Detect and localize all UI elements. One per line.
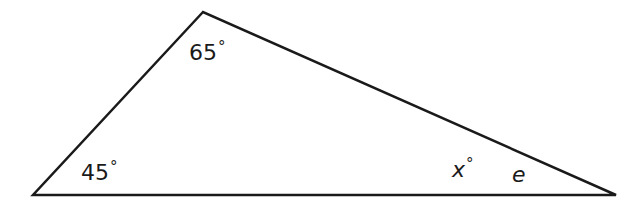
vertex-name: e	[512, 162, 526, 187]
degree-symbol: °	[466, 155, 474, 173]
degree-symbol: °	[110, 158, 118, 176]
angle-value: 45	[81, 160, 109, 185]
angle-variable: x	[452, 157, 465, 182]
angle-label-x: x°	[452, 157, 474, 181]
triangle	[33, 12, 616, 195]
degree-symbol: °	[218, 38, 226, 56]
angle-label-top: 65°	[189, 40, 226, 64]
vertex-label-e: e	[512, 164, 526, 186]
angle-label-bottom-left: 45°	[81, 160, 118, 184]
angle-value: 65	[189, 40, 217, 65]
